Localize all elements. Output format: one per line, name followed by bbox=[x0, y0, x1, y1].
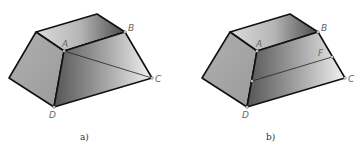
label-d: D bbox=[49, 110, 56, 120]
label-a: A bbox=[255, 39, 262, 49]
caption-b: b) bbox=[266, 132, 275, 142]
label-b: B bbox=[128, 23, 134, 33]
label-f: F bbox=[318, 48, 324, 58]
point-c bbox=[344, 77, 347, 80]
caption-a: a) bbox=[80, 132, 89, 142]
label-c: C bbox=[155, 74, 162, 84]
label-e: E bbox=[255, 71, 261, 81]
point-d bbox=[53, 106, 56, 109]
label-a: A bbox=[61, 39, 68, 49]
figure-a: A B C D a) bbox=[9, 14, 162, 142]
point-a bbox=[63, 50, 66, 53]
label-d: D bbox=[242, 110, 249, 120]
figure-b: A B C D E F b) bbox=[202, 14, 355, 142]
point-b bbox=[124, 31, 127, 34]
point-f bbox=[331, 56, 334, 59]
point-e bbox=[251, 80, 254, 83]
label-c: C bbox=[348, 74, 355, 84]
point-a bbox=[256, 50, 259, 53]
diagram-canvas: A B C D a) A B C D E F b) bbox=[0, 0, 359, 150]
point-c bbox=[151, 77, 154, 80]
point-d bbox=[246, 106, 249, 109]
point-b bbox=[317, 31, 320, 34]
label-b: B bbox=[321, 23, 327, 33]
